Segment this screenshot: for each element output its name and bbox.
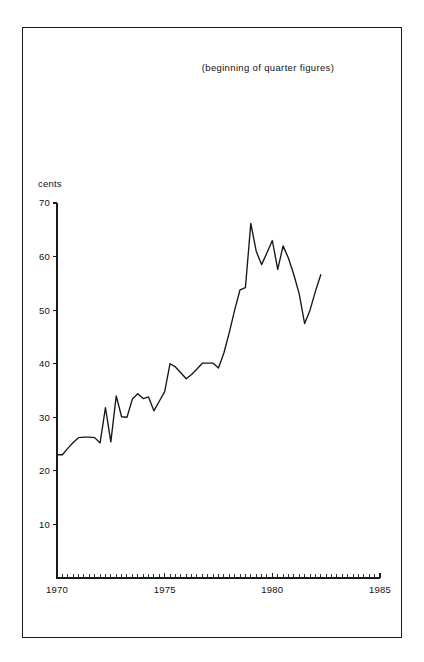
y-tick-label: 50: [39, 305, 50, 316]
y-tick-label: 30: [39, 412, 50, 423]
y-axis-ticks: [53, 203, 58, 524]
y-tick-label: 20: [39, 465, 50, 476]
chart-subtitle-note: (beginning of quarter figures): [202, 62, 335, 73]
x-tick-label: 1985: [369, 584, 391, 595]
data-series-line: [57, 223, 321, 454]
chart-axes: [57, 203, 380, 578]
x-axis-minor-ticks: [57, 573, 380, 579]
x-tick-label: 1980: [261, 584, 283, 595]
line-chart: (beginning of quarter figures) cents 102…: [0, 0, 424, 662]
figure-page: (beginning of quarter figures) cents 102…: [0, 0, 424, 662]
y-tick-label: 70: [39, 197, 50, 208]
y-tick-label: 10: [39, 519, 50, 530]
x-tick-label: 1970: [46, 584, 68, 595]
x-tick-label: 1975: [154, 584, 176, 595]
y-tick-label: 40: [39, 358, 50, 369]
y-axis-tick-labels: 10203040506070: [39, 197, 50, 529]
x-axis-tick-labels: 1970197519801985: [46, 584, 391, 595]
y-axis-unit-label: cents: [38, 178, 62, 189]
y-tick-label: 60: [39, 251, 50, 262]
